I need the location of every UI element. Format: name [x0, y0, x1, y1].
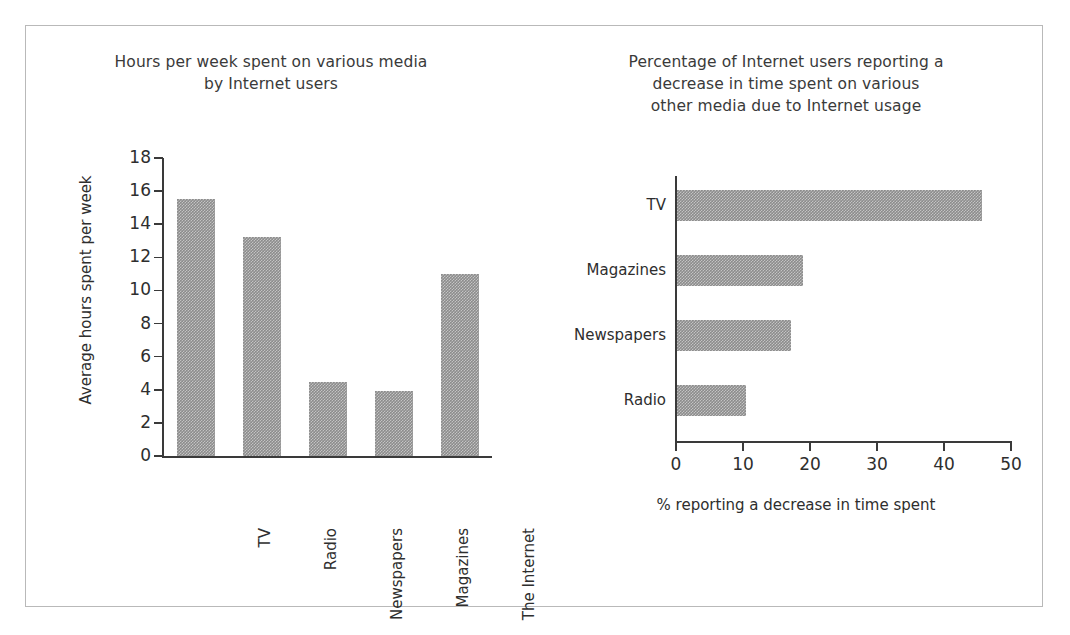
left-chart-panel: Hours per week spent on various mediaby …: [26, 26, 526, 608]
y-tick: [154, 389, 163, 391]
y-tick: [154, 422, 163, 424]
y-category-label: Newspapers: [528, 326, 666, 344]
y-tick-label: 18: [115, 147, 151, 167]
y-tick: [154, 157, 163, 159]
title-line-2: other media due to Internet usage: [546, 95, 1026, 117]
bar-magazines: [375, 391, 413, 456]
y-tick: [154, 356, 163, 358]
left-x-axis-line: [162, 456, 492, 458]
right-chart-panel: Percentage of Internet users reporting a…: [526, 26, 1044, 608]
y-tick-label: 10: [115, 279, 151, 299]
y-tick: [154, 290, 163, 292]
x-tick-label: 10: [718, 454, 768, 474]
y-tick: [154, 323, 163, 325]
bar-tv: [177, 199, 215, 456]
y-tick: [154, 257, 163, 259]
x-tick-label: 0: [651, 454, 701, 474]
x-tick: [742, 441, 744, 451]
figure-frame: Hours per week spent on various mediaby …: [25, 25, 1043, 607]
x-category-label: Magazines: [454, 528, 472, 635]
y-tick-label: 12: [115, 246, 151, 266]
x-tick: [1010, 441, 1012, 451]
x-tick-label: 50: [986, 454, 1036, 474]
x-tick: [943, 441, 945, 451]
bar-radio: [677, 385, 746, 416]
title-line-1: decrease in time spent on various: [546, 73, 1026, 95]
x-category-label: TV: [256, 528, 274, 635]
bar-newspapers: [677, 320, 791, 351]
y-tick-label: 2: [115, 412, 151, 432]
y-tick-label: 8: [115, 313, 151, 333]
title-line-0: Hours per week spent on various media: [56, 51, 486, 73]
left-chart-title: Hours per week spent on various mediaby …: [56, 51, 486, 95]
right-x-axis-title: % reporting a decrease in time spent: [586, 496, 1006, 514]
x-category-label: Radio: [322, 528, 340, 635]
x-tick: [876, 441, 878, 451]
y-tick-label: 16: [115, 180, 151, 200]
x-tick-label: 40: [919, 454, 969, 474]
y-category-label: Magazines: [528, 261, 666, 279]
y-tick-label: 4: [115, 379, 151, 399]
x-tick-label: 20: [785, 454, 835, 474]
title-line-1: by Internet users: [56, 73, 486, 95]
y-tick-label: 6: [115, 346, 151, 366]
x-tick: [675, 441, 677, 451]
y-tick-label: 14: [115, 213, 151, 233]
bar-radio: [243, 237, 281, 456]
left-y-axis-title: Average hours spent per week: [77, 175, 95, 405]
bar-the-internet: [441, 274, 479, 456]
left-y-axis-line: [162, 158, 164, 457]
y-category-label: TV: [528, 196, 666, 214]
right-x-axis-line: [675, 441, 1012, 443]
right-chart-title: Percentage of Internet users reporting a…: [546, 51, 1026, 117]
y-tick: [154, 455, 163, 457]
y-tick: [154, 190, 163, 192]
y-tick-label: 0: [115, 445, 151, 465]
title-line-0: Percentage of Internet users reporting a: [546, 51, 1026, 73]
bar-newspapers: [309, 382, 347, 457]
x-tick: [809, 441, 811, 451]
x-tick-label: 30: [852, 454, 902, 474]
y-tick: [154, 223, 163, 225]
x-category-label: Newspapers: [388, 528, 406, 635]
y-category-label: Radio: [528, 391, 666, 409]
bar-magazines: [677, 255, 803, 286]
bar-tv: [677, 190, 982, 221]
